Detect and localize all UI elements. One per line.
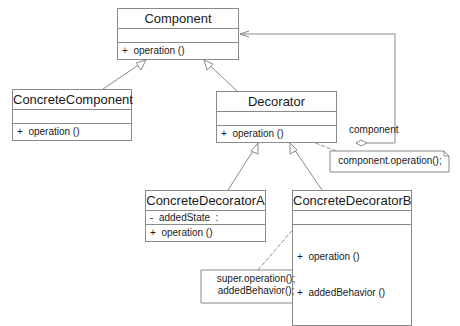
class-name: Component [118,9,238,29]
class-decorator[interactable]: Decorator + operation () [216,91,337,143]
operations-compartment: + operation () [13,124,131,140]
class-name: ConcreteDecoratorA [146,191,265,211]
class-concrete-decorator-a[interactable]: ConcreteDecoratorA - addedState : + oper… [145,190,266,242]
operation: + addedBehavior () [297,287,411,299]
attributes-compartment [217,112,336,126]
class-concrete-component[interactable]: ConcreteComponent + operation () [12,89,132,141]
operation: + operation () [221,128,336,140]
class-name: ConcreteDecoratorB [293,191,411,211]
note-decorator: component.operation(); [334,155,446,166]
attributes-compartment [293,211,411,225]
attributes-compartment: - addedState : [146,211,265,225]
class-component[interactable]: Component + operation () [117,8,239,60]
operations-compartment: + operation () [146,225,265,241]
operation: + operation () [297,251,411,263]
attributes-compartment [13,110,131,124]
operation: + operation () [150,227,265,239]
class-name: Decorator [217,92,336,112]
association-role-label: component [349,124,398,135]
operations-compartment: + operation () [118,43,238,59]
attributes-compartment [118,29,238,43]
note-line: super.operation(); [203,273,309,285]
note-concrete-decorator-b: super.operation(); addedBehavior(); [203,273,309,297]
operations-compartment: + operation () [217,126,336,142]
class-name: ConcreteComponent [13,90,131,110]
operations-compartment: + operation () + addedBehavior () [293,225,411,325]
class-concrete-decorator-b[interactable]: ConcreteDecoratorB + operation () + adde… [292,190,412,326]
operation: + operation () [17,126,131,138]
note-line: addedBehavior(); [203,285,309,297]
operation: + operation () [122,45,238,57]
